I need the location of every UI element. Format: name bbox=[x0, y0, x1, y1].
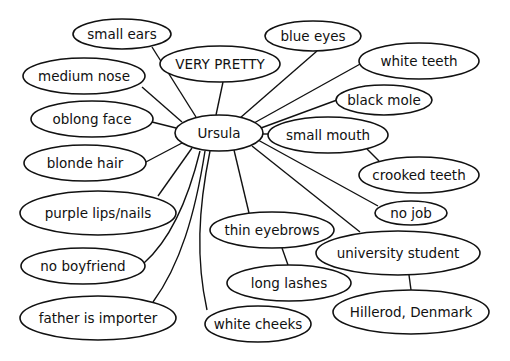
node-crooked-teeth: crooked teeth bbox=[359, 157, 479, 193]
edge-ursula-to-very-pretty bbox=[216, 82, 223, 115]
node-label: oblong face bbox=[52, 111, 131, 127]
node-long-lashes: long lashes bbox=[227, 265, 351, 301]
node-small-ears: small ears bbox=[73, 19, 171, 49]
edge-thin-eyebrows-to-long-lashes bbox=[282, 248, 288, 265]
node-label: blue eyes bbox=[280, 28, 345, 44]
node-blonde-hair: blonde hair bbox=[24, 145, 146, 181]
edge-university-student-to-hillerod-denmark bbox=[409, 275, 411, 290]
node-white-cheeks: white cheeks bbox=[205, 306, 311, 342]
edge-ursula-to-thin-eyebrows bbox=[234, 150, 249, 213]
node-university-student: university student bbox=[316, 231, 480, 275]
node-label: VERY PRETTY bbox=[175, 56, 265, 72]
node-father-is-importer: father is importer bbox=[20, 296, 176, 340]
node-label: no job bbox=[390, 205, 432, 221]
node-label: purple lips/nails bbox=[45, 205, 152, 221]
node-label: small mouth bbox=[286, 127, 370, 143]
mind-map-diagram: Ursulasmall earsVERY PRETTYblue eyeswhit… bbox=[0, 0, 510, 361]
nodes: Ursulasmall earsVERY PRETTYblue eyeswhit… bbox=[20, 19, 489, 342]
node-label: Hillerod, Denmark bbox=[350, 304, 473, 320]
node-label: black mole bbox=[347, 92, 421, 108]
node-no-job: no job bbox=[375, 201, 447, 225]
node-no-boyfriend: no boyfriend bbox=[21, 248, 145, 284]
node-medium-nose: medium nose bbox=[23, 58, 145, 94]
node-label: thin eyebrows bbox=[224, 222, 319, 238]
node-black-mole: black mole bbox=[336, 85, 432, 115]
node-label: Ursula bbox=[197, 125, 240, 141]
node-very-pretty: VERY PRETTY bbox=[160, 46, 280, 82]
node-label: small ears bbox=[87, 26, 156, 42]
edge-ursula-to-oblong-face bbox=[152, 122, 176, 128]
node-label: long lashes bbox=[251, 275, 327, 291]
node-hillerod-denmark: Hillerod, Denmark bbox=[333, 290, 489, 334]
node-label: father is importer bbox=[39, 310, 158, 326]
node-white-teeth: white teeth bbox=[359, 43, 479, 79]
edge-small-mouth-to-crooked-teeth bbox=[367, 149, 379, 161]
node-thin-eyebrows: thin eyebrows bbox=[210, 212, 334, 248]
node-label: crooked teeth bbox=[372, 167, 465, 183]
edge-ursula-to-purple-lips-nails bbox=[158, 148, 192, 196]
node-label: white cheeks bbox=[214, 316, 303, 332]
node-label: university student bbox=[337, 245, 460, 261]
node-label: no boyfriend bbox=[40, 258, 125, 274]
node-small-mouth: small mouth bbox=[268, 117, 388, 153]
node-purple-lips-nails: purple lips/nails bbox=[20, 191, 176, 235]
node-oblong-face: oblong face bbox=[31, 101, 153, 137]
center-node-ursula: Ursula bbox=[175, 115, 263, 151]
node-label: blonde hair bbox=[47, 155, 124, 171]
node-label: white teeth bbox=[381, 53, 458, 69]
edge-ursula-to-blonde-hair bbox=[144, 143, 182, 163]
node-label: medium nose bbox=[38, 68, 130, 84]
node-blue-eyes: blue eyes bbox=[265, 21, 361, 51]
